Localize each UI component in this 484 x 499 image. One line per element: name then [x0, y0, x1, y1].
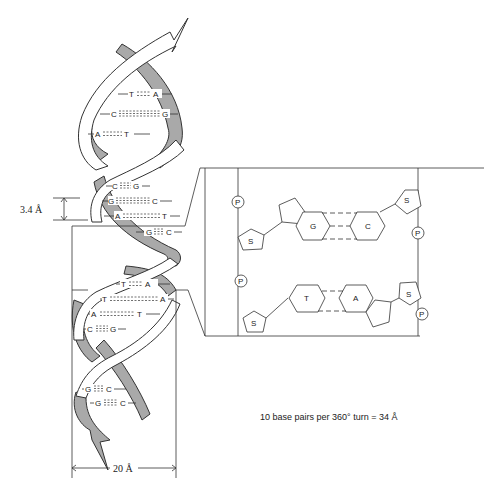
base-label: C: [112, 182, 118, 191]
base-label: A: [95, 130, 101, 139]
base-label: G: [95, 399, 101, 408]
base-label: G: [133, 182, 139, 191]
base-label: C: [111, 110, 117, 119]
base-label: C: [152, 197, 158, 206]
sugar-label: S: [251, 319, 256, 328]
base-label: T: [162, 212, 167, 221]
base-label: T: [124, 130, 129, 139]
phosphate-label: P: [238, 277, 243, 286]
width-label: 20 Å: [113, 463, 134, 474]
base-label: C: [106, 385, 112, 394]
base-label: A: [115, 212, 121, 221]
base-label: A: [153, 90, 159, 99]
base-label: T: [129, 90, 134, 99]
base-label: T: [304, 294, 309, 303]
sugar-label: S: [404, 196, 409, 205]
phosphate-label: P: [415, 229, 420, 238]
base-label: C: [87, 325, 93, 334]
base-label: T: [102, 295, 107, 304]
base-label: G: [110, 325, 116, 334]
double-helix: [72, 18, 188, 470]
sugar-label: S: [406, 290, 411, 299]
base-label: G: [85, 385, 91, 394]
detail-box: [205, 168, 428, 336]
base-label: A: [353, 294, 359, 303]
phosphate-label: P: [419, 310, 424, 319]
base-label: G: [108, 197, 114, 206]
base-label: A: [145, 280, 151, 289]
base-label: A: [160, 295, 166, 304]
phosphate-label: P: [235, 198, 240, 207]
base-label: G: [162, 110, 168, 119]
base-label: A: [91, 310, 97, 319]
base-label: C: [120, 399, 126, 408]
base-label: C: [166, 228, 172, 237]
pitch-dimension: [53, 198, 88, 220]
base-label: G: [146, 228, 152, 237]
caption: 10 base pairs per 360° turn = 34 Å: [260, 412, 397, 422]
sugar-label: S: [248, 237, 253, 246]
pitch-label: 3.4 Å: [20, 204, 43, 215]
base-label: T: [137, 310, 142, 319]
base-label: C: [365, 222, 371, 231]
base-label: T: [121, 280, 126, 289]
detail-labels: P P P P S S S S G C T A: [235, 196, 424, 328]
dna-diagram: T A C G A T C G G C A T G C T A T A A T …: [0, 0, 484, 499]
base-label: G: [310, 222, 316, 231]
